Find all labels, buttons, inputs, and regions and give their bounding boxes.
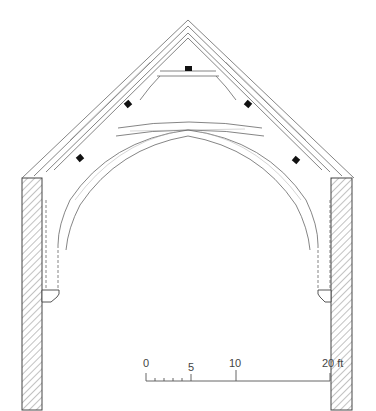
arch-braces — [58, 130, 318, 250]
principal-rafters — [22, 20, 354, 178]
scale-label-0: 0 — [143, 357, 149, 369]
roof-truss-drawing — [0, 0, 376, 411]
peg-left-lower — [76, 154, 84, 162]
right-corbel — [318, 290, 331, 302]
peg-right-lower — [292, 156, 300, 164]
right-wall — [331, 178, 352, 410]
scale-bar — [146, 370, 330, 381]
scale-label-20ft: 20 ft — [322, 357, 343, 369]
scale-label-10: 10 — [229, 357, 241, 369]
peg-collar — [185, 66, 192, 71]
peg-right-upper — [244, 100, 252, 108]
upper-collar-beam — [140, 71, 236, 100]
left-wall — [22, 178, 42, 410]
wall-posts — [46, 200, 330, 290]
left-corbel — [42, 290, 59, 302]
scale-label-5: 5 — [188, 361, 194, 373]
peg-left-upper — [124, 100, 132, 108]
arched-collar-beam — [116, 122, 264, 136]
